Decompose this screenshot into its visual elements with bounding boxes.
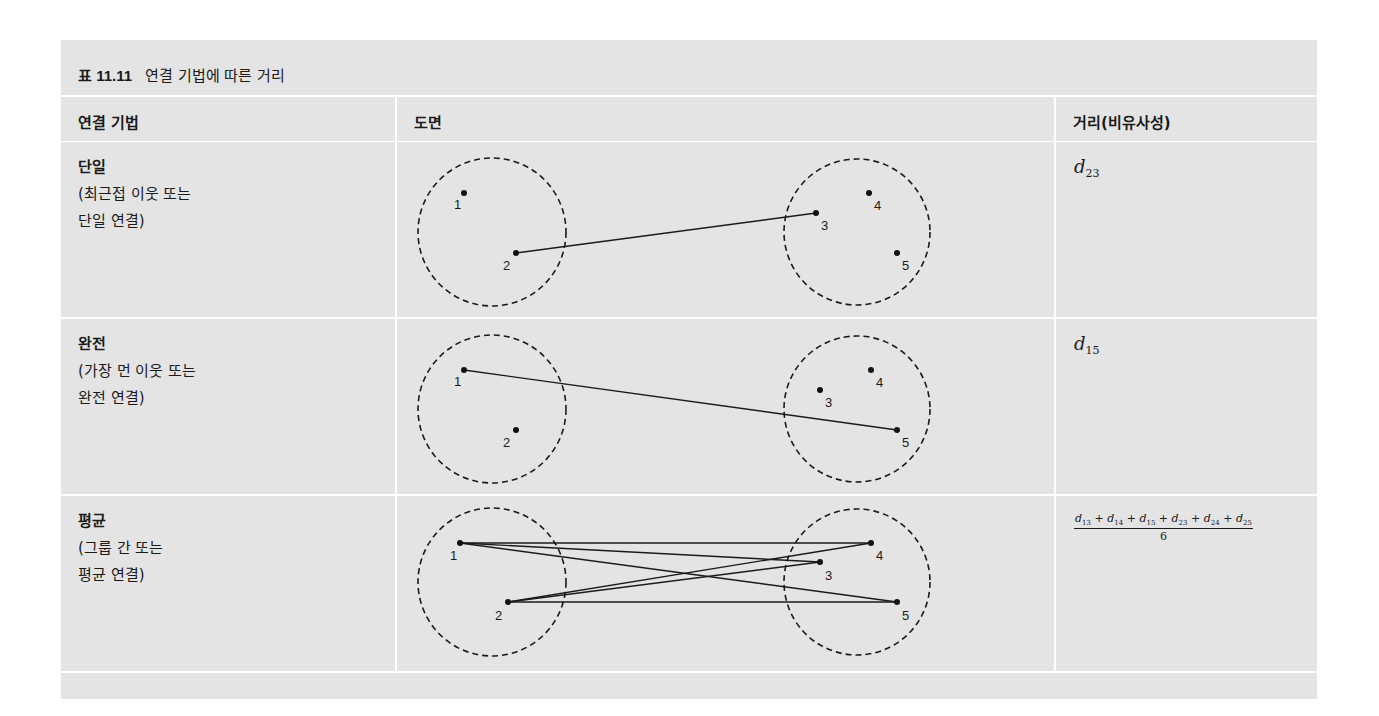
table-footer-band — [61, 673, 1317, 699]
distance-subscript: 15 — [1086, 344, 1100, 357]
row-complete-diagram: 1 2 3 4 5 — [397, 319, 1054, 494]
cluster-b-outline — [784, 509, 930, 655]
point-label-2: 2 — [503, 258, 510, 273]
row-complete-method: 완전 (가장 먼 이웃 또는 완전 연결) — [61, 319, 395, 494]
edge-2-3 — [516, 213, 816, 253]
method-desc: (최근접 이웃 또는 — [78, 181, 191, 208]
row-average-diagram: 1 2 3 4 5 — [397, 496, 1054, 671]
header-distance: 거리(비유사성) — [1056, 97, 1317, 141]
point-label-1: 1 — [454, 197, 461, 212]
distance-formula: d23 — [1074, 156, 1100, 180]
point-label-2: 2 — [495, 608, 502, 623]
point-label-1: 1 — [454, 374, 461, 389]
point-label-4: 4 — [874, 198, 881, 213]
table-title: 연결 기법에 따른 거리 — [145, 67, 285, 85]
method-title: 완전 — [78, 331, 196, 358]
table-number: 표 11.11 — [78, 67, 132, 84]
point-3 — [813, 210, 819, 216]
edge-2-3 — [508, 562, 820, 602]
row-complete-distance: d15 — [1056, 319, 1317, 494]
point-5 — [894, 599, 900, 605]
term-subscript: 23 — [1179, 519, 1188, 527]
method-desc: 평균 연결) — [78, 562, 163, 589]
method-title: 평균 — [78, 508, 163, 535]
distance-symbol: d — [1074, 333, 1086, 354]
point-3 — [817, 559, 823, 565]
method-desc: 완전 연결) — [78, 385, 196, 412]
point-label-4: 4 — [876, 548, 883, 563]
point-label-5: 5 — [902, 435, 909, 450]
fraction-denominator: 6 — [1074, 529, 1253, 543]
method-label: 완전 (가장 먼 이웃 또는 완전 연결) — [78, 331, 196, 412]
method-label: 평균 (그룹 간 또는 평균 연결) — [78, 508, 163, 589]
point-2 — [513, 250, 519, 256]
point-5 — [894, 427, 900, 433]
method-desc: (가장 먼 이웃 또는 — [78, 358, 196, 385]
method-title: 단일 — [78, 154, 191, 181]
cluster-b-outline — [784, 336, 930, 482]
term-symbol: d — [1204, 512, 1211, 525]
distance-subscript: 23 — [1086, 167, 1100, 180]
point-label-5: 5 — [902, 258, 909, 273]
header-diagram: 도면 — [397, 97, 1054, 141]
point-label-2: 2 — [503, 435, 510, 450]
point-label-3: 3 — [821, 218, 828, 233]
cluster-a-outline — [418, 158, 566, 306]
row-single-method: 단일 (최근접 이웃 또는 단일 연결) — [61, 142, 395, 317]
term-subscript: 25 — [1243, 519, 1252, 527]
term-subscript: 24 — [1211, 519, 1220, 527]
point-2 — [505, 599, 511, 605]
method-desc: 단일 연결) — [78, 208, 191, 235]
point-label-1: 1 — [450, 548, 457, 563]
point-label-3: 3 — [825, 568, 832, 583]
point-label-4: 4 — [876, 375, 883, 390]
fraction-numerator: d13 + d14 + d15 + d23 + d24 + d25 — [1074, 512, 1253, 529]
cluster-b-outline — [784, 159, 930, 305]
term-symbol: d — [1236, 512, 1243, 525]
point-3 — [817, 387, 823, 393]
point-4 — [868, 367, 874, 373]
table-caption-band: 표 11.11 연결 기법에 따른 거리 — [61, 40, 1317, 95]
point-4 — [866, 190, 872, 196]
term-subscript: 13 — [1082, 519, 1091, 527]
term-subscript: 14 — [1114, 519, 1123, 527]
table-caption: 표 11.11 연결 기법에 따른 거리 — [78, 64, 285, 85]
cluster-a-outline — [418, 335, 566, 483]
point-5 — [894, 250, 900, 256]
average-linkage-diagram: 1 2 3 4 5 — [397, 496, 1054, 671]
header-method-label: 연결 기법 — [78, 111, 139, 132]
cluster-a-outline — [418, 508, 566, 656]
term-symbol: d — [1075, 512, 1082, 525]
method-desc: (그룹 간 또는 — [78, 535, 163, 562]
row-single-distance: d23 — [1056, 142, 1317, 317]
header-diagram-label: 도면 — [414, 111, 442, 132]
row-average-method: 평균 (그룹 간 또는 평균 연결) — [61, 496, 395, 671]
edge-2-4 — [508, 543, 871, 602]
row-single-diagram: 1 2 3 4 5 — [397, 142, 1054, 317]
term-subscript: 15 — [1146, 519, 1155, 527]
point-1 — [461, 367, 467, 373]
point-2 — [513, 427, 519, 433]
complete-linkage-diagram: 1 2 3 4 5 — [397, 319, 1054, 494]
point-label-3: 3 — [825, 395, 832, 410]
header-distance-label: 거리(비유사성) — [1073, 111, 1171, 132]
average-distance-fraction: d13 + d14 + d15 + d23 + d24 + d25 6 — [1074, 512, 1253, 543]
header-method: 연결 기법 — [61, 97, 395, 141]
point-label-5: 5 — [902, 608, 909, 623]
point-1 — [457, 540, 463, 546]
row-average-distance: d13 + d14 + d15 + d23 + d24 + d25 6 — [1056, 496, 1317, 671]
term-symbol: d — [1172, 512, 1179, 525]
point-4 — [868, 540, 874, 546]
edge-1-3 — [460, 543, 820, 562]
point-1 — [461, 190, 467, 196]
distance-symbol: d — [1074, 156, 1086, 177]
distance-formula: d15 — [1074, 333, 1100, 357]
single-linkage-diagram: 1 2 3 4 5 — [397, 142, 1054, 317]
method-label: 단일 (최근접 이웃 또는 단일 연결) — [78, 154, 191, 235]
